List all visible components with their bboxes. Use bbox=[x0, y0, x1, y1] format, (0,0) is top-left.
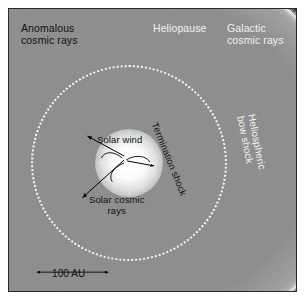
label-solar-cosmic-rays: Solar cosmic rays bbox=[89, 195, 145, 216]
label-anomalous-cosmic-rays: Anomalous cosmic rays bbox=[21, 23, 78, 47]
label-heliopause: Heliopause bbox=[153, 23, 207, 35]
scale-bar-label: 100 AU bbox=[52, 268, 85, 279]
figure-plate: Anomalous cosmic rays Heliopause Galacti… bbox=[8, 8, 297, 292]
label-solar-wind: Solar wind bbox=[97, 135, 142, 146]
label-galactic-cosmic-rays: Galactic cosmic rays bbox=[227, 23, 284, 47]
heliosphere-figure: Anomalous cosmic rays Heliopause Galacti… bbox=[0, 0, 305, 304]
